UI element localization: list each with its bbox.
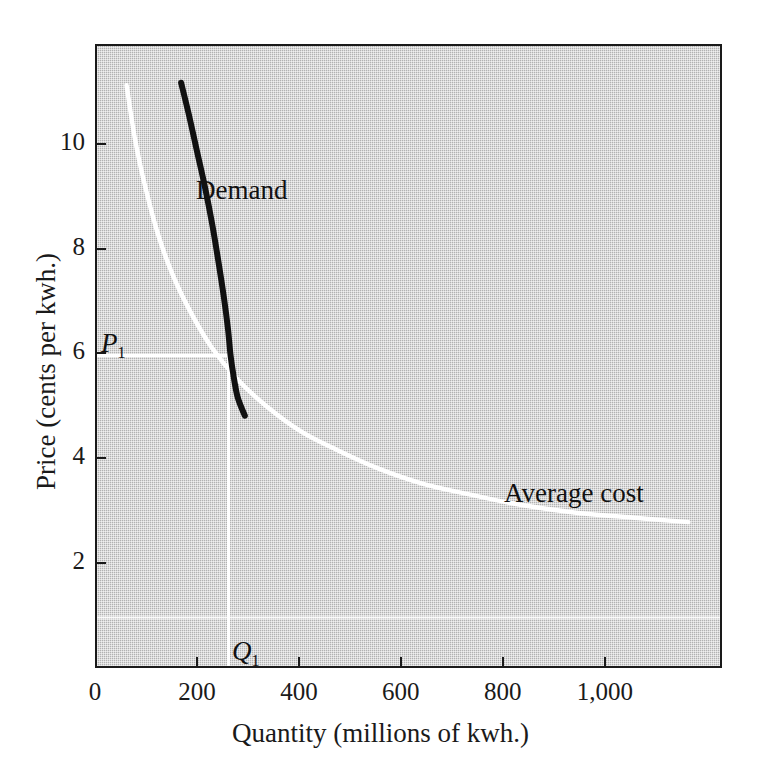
average-cost-curve bbox=[127, 85, 689, 522]
x-tick-mark bbox=[502, 657, 504, 668]
demand-curve bbox=[181, 83, 245, 416]
y-tick-mark bbox=[95, 248, 106, 250]
y-tick-mark bbox=[95, 562, 106, 564]
chart-figure: Demand Average cost P1 Q1 24681002004006… bbox=[0, 0, 761, 784]
x-tick-label: 200 bbox=[152, 678, 242, 706]
x-tick-mark bbox=[196, 657, 198, 668]
x-tick-mark bbox=[604, 657, 606, 668]
equilibrium-price-label: P1 bbox=[101, 328, 126, 362]
plot-area bbox=[95, 44, 722, 668]
y-tick-mark bbox=[95, 457, 106, 459]
y-axis-title: Price (cents per kwh.) bbox=[31, 122, 62, 622]
q1-subscript: 1 bbox=[252, 652, 260, 669]
average-cost-curve-label: Average cost bbox=[504, 478, 644, 509]
y-tick-mark bbox=[95, 143, 106, 145]
x-axis-title: Quantity (millions of kwh.) bbox=[0, 718, 761, 749]
chart-curves bbox=[97, 46, 722, 668]
x-tick-label: 400 bbox=[254, 678, 344, 706]
demand-curve-label: Demand bbox=[196, 175, 287, 206]
p1-subscript: 1 bbox=[118, 344, 126, 361]
q1-base: Q bbox=[232, 636, 252, 666]
x-tick-mark bbox=[298, 657, 300, 668]
x-tick-mark bbox=[400, 657, 402, 668]
x-tick-label: 0 bbox=[50, 678, 140, 706]
x-tick-label: 1,000 bbox=[560, 678, 650, 706]
y-tick-mark bbox=[95, 352, 106, 354]
x-tick-label: 800 bbox=[458, 678, 548, 706]
x-tick-label: 600 bbox=[356, 678, 446, 706]
equilibrium-quantity-label: Q1 bbox=[232, 636, 260, 670]
